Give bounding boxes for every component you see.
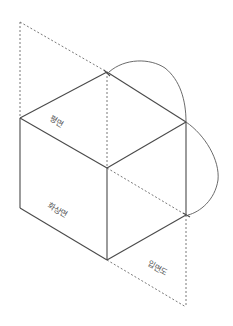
plan-edge-top-right xyxy=(107,72,186,122)
plan-label: 평면 xyxy=(48,113,65,129)
front-elevation-label: 화상면 xyxy=(46,200,69,219)
side-elevation-label: 입면도 xyxy=(146,258,169,277)
plan-edge-top-left xyxy=(20,72,107,118)
center-to-right-projection-line xyxy=(107,168,186,215)
side-edge-bottom xyxy=(107,215,186,260)
plan-edge-bottom-left xyxy=(20,118,107,168)
intersection-marks xyxy=(104,70,190,217)
projection-diagram: 평면 화상면 입면도 xyxy=(0,0,233,326)
lower-rotation-arc xyxy=(186,122,218,215)
upper-rotation-arc xyxy=(109,61,186,122)
plan-edge-bottom-right xyxy=(107,122,186,168)
bottom-projection-line xyxy=(107,260,186,307)
top-projection-line xyxy=(20,22,107,72)
cube-edges xyxy=(20,72,186,260)
